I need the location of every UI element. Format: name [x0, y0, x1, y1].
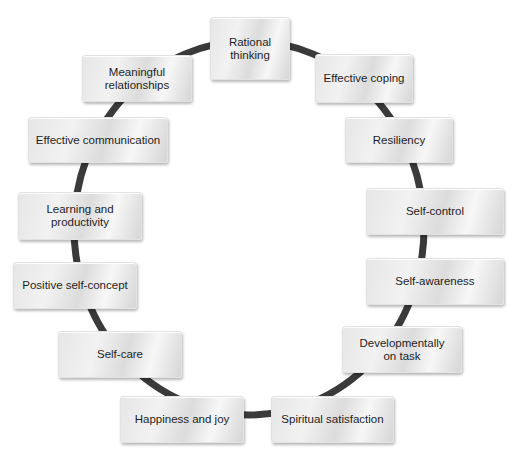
node-learning-and-productivity: Learning andproductivity [18, 192, 142, 240]
node-resiliency: Resiliency [345, 117, 453, 163]
node-label: Effective coping [324, 72, 405, 85]
node-label: Self-care [97, 348, 143, 361]
node-rational-thinking: Rationalthinking [210, 17, 290, 80]
node-label: Self-awareness [395, 275, 474, 288]
node-label: Rationalthinking [229, 36, 271, 62]
node-spiritual-satisfaction: Spiritual satisfaction [271, 396, 394, 443]
node-label: Developmentallyon task [359, 337, 444, 363]
node-label: Effective communication [36, 134, 160, 147]
node-self-control: Self-control [366, 188, 504, 235]
node-label: Learning andproductivity [46, 203, 113, 229]
node-label: Positive self-concept [22, 279, 127, 292]
node-developmentally-on-task: Developmentallyon task [342, 326, 462, 373]
node-label: Meaningfulrelationships [105, 66, 170, 92]
node-label: Spiritual satisfaction [281, 413, 383, 426]
node-self-awareness: Self-awareness [366, 258, 504, 305]
node-positive-self-concept: Positive self-concept [13, 262, 137, 309]
node-happiness-and-joy: Happiness and joy [120, 396, 244, 443]
node-label: Self-control [406, 205, 464, 218]
node-meaningful-relationships: Meaningfulrelationships [82, 55, 192, 102]
node-effective-coping: Effective coping [315, 54, 413, 103]
node-self-care: Self-care [58, 331, 182, 378]
node-effective-communication: Effective communication [28, 117, 168, 163]
wellness-cycle-diagram: RationalthinkingEffective copingResilien… [0, 0, 521, 463]
node-label: Resiliency [373, 134, 425, 147]
node-label: Happiness and joy [135, 413, 230, 426]
